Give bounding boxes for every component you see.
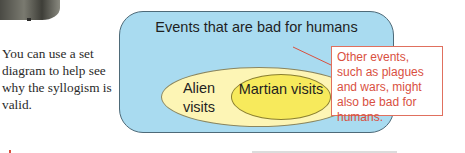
martian-set-label: Martian visits [232, 80, 330, 98]
set-martian-visits: Martian visits [231, 74, 331, 120]
callout-note: Other events, such as plagues and wars, … [331, 46, 443, 116]
outer-set-label: Events that are bad for humans [120, 17, 393, 37]
photo-fragment [0, 0, 60, 20]
bottom-box-edge [252, 151, 397, 153]
red-mark-fragment [9, 150, 11, 153]
alien-set-label: Alien visits [174, 79, 224, 117]
set-alien-visits: Alien visits Martian visits [161, 67, 357, 127]
photo-fragment-detail [27, 18, 31, 21]
caption-text: You can use a set diagram to help see wh… [2, 45, 112, 113]
